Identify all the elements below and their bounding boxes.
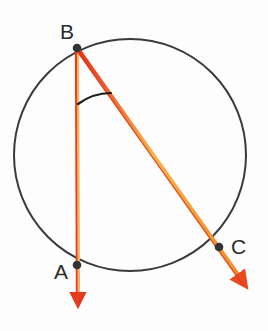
point-c-dot — [215, 243, 224, 252]
point-b-label: B — [60, 21, 74, 42]
angle-arc — [78, 93, 111, 104]
point-c-label: C — [231, 236, 246, 257]
geometry-canvas — [0, 0, 268, 331]
point-a-label: A — [54, 261, 68, 282]
geometry-diagram: B A C — [0, 0, 268, 331]
point-a-dot — [73, 261, 82, 270]
point-b-dot — [73, 44, 82, 53]
